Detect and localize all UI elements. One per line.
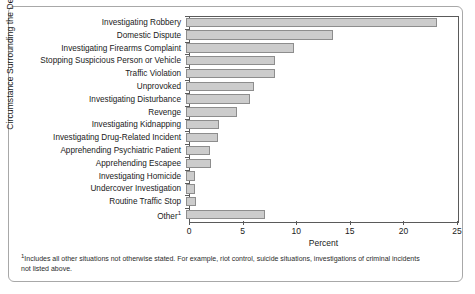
x-tick-label: 25	[442, 226, 472, 236]
x-tick-mark	[350, 221, 351, 225]
bar-row: Investigating Robbery	[9, 16, 458, 29]
bar-category-label: Traffic Violation	[9, 69, 185, 78]
bar	[186, 197, 196, 206]
bar-track	[185, 170, 455, 183]
x-tick-label: 15	[335, 226, 365, 236]
bar-track	[185, 67, 455, 80]
bar-row: Undercover Investigation	[9, 183, 458, 196]
bar-row: Domestic Dispute	[9, 29, 458, 42]
bar-row: Stopping Suspicious Person or Vehicle	[9, 54, 458, 67]
bar-row: Investigating Kidnapping	[9, 119, 458, 132]
bar	[186, 184, 195, 193]
bar-category-label: Investigating Homicide	[9, 172, 185, 181]
bar-track	[185, 195, 455, 208]
bar-category-label: Other1	[9, 209, 185, 221]
x-tick-mark	[457, 221, 458, 225]
bar-category-label: Apprehending Escapee	[9, 159, 185, 168]
bar-track	[185, 106, 455, 119]
bar-track	[185, 157, 455, 170]
bar-row: Routine Traffic Stop	[9, 195, 458, 208]
bar-category-label: Undercover Investigation	[9, 184, 185, 193]
category-footnote-marker: 1	[178, 210, 181, 216]
bar-category-label: Domestic Dispute	[9, 31, 185, 40]
bar-category-label: Apprehending Psychiatric Patient	[9, 146, 185, 155]
bar-category-label: Investigating Firearms Complaint	[9, 44, 185, 53]
bar-row: Other1	[9, 208, 458, 221]
footnote: 1Includes all other situations not other…	[21, 252, 431, 273]
bar-category-label: Routine Traffic Stop	[9, 197, 185, 206]
bar-category-label: Stopping Suspicious Person or Vehicle	[9, 56, 185, 65]
bar	[186, 120, 219, 129]
bar-category-label: Revenge	[9, 108, 185, 117]
bar-row: Investigating Drug-Related Incident	[9, 131, 458, 144]
bar-row: Traffic Violation	[9, 67, 458, 80]
bar	[186, 18, 437, 27]
bar-category-label: Investigating Disturbance	[9, 95, 185, 104]
bar-track	[185, 42, 455, 55]
footnote-text: Includes all other situations not otherw…	[21, 255, 420, 272]
bar-track	[185, 54, 455, 67]
bar	[186, 30, 333, 39]
bar-category-label: Unprovoked	[9, 82, 185, 91]
bar	[186, 94, 250, 103]
bar-row: Investigating Disturbance	[9, 93, 458, 106]
bar-track	[185, 208, 455, 221]
x-tick-mark	[296, 221, 297, 225]
x-tick-mark	[243, 221, 244, 225]
bar	[186, 107, 237, 116]
bar-row: Revenge	[9, 106, 458, 119]
bar-track	[185, 16, 455, 29]
bar-row: Investigating Firearms Complaint	[9, 42, 458, 55]
bar	[186, 69, 275, 78]
x-tick-label: 0	[174, 226, 204, 236]
bar-category-label: Investigating Kidnapping	[9, 120, 185, 129]
x-tick-mark	[189, 221, 190, 225]
bar-track	[185, 93, 455, 106]
bar	[186, 146, 210, 155]
figure-frame: Circumstance Surrounding the Death Inves…	[8, 6, 463, 282]
bar-track	[185, 131, 455, 144]
x-tick-label: 10	[281, 226, 311, 236]
bar-rows: Investigating RobberyDomestic DisputeInv…	[9, 16, 458, 221]
bar-track	[185, 144, 455, 157]
x-axis-title: Percent	[189, 238, 458, 248]
bar	[186, 133, 218, 142]
bar-track	[185, 183, 455, 196]
bar-track	[185, 80, 455, 93]
bar-track	[185, 119, 455, 132]
bar-row: Unprovoked	[9, 80, 458, 93]
bar-category-label: Investigating Robbery	[9, 18, 185, 27]
bar-row: Investigating Homicide	[9, 170, 458, 183]
x-tick-label: 5	[228, 226, 258, 236]
bar	[186, 56, 275, 65]
bar	[186, 171, 195, 180]
bar	[186, 210, 265, 219]
bar	[186, 82, 254, 91]
bar	[186, 43, 294, 52]
bar-track	[185, 29, 455, 42]
bar-row: Apprehending Escapee	[9, 157, 458, 170]
bar	[186, 159, 211, 168]
x-tick-mark	[403, 221, 404, 225]
bar-category-label: Investigating Drug-Related Incident	[9, 133, 185, 142]
x-tick-label: 20	[388, 226, 418, 236]
bar-row: Apprehending Psychiatric Patient	[9, 144, 458, 157]
